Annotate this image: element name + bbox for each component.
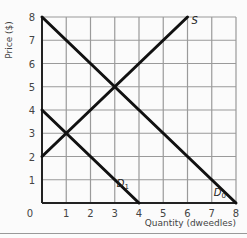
y-tick-label: 2 (29, 152, 35, 163)
x-tick-label: 3 (112, 208, 118, 219)
y-tick-label: 3 (29, 128, 35, 139)
curve-label-s: S (192, 15, 199, 26)
x-tick-label: 1 (63, 208, 69, 219)
y-tick-label: 7 (29, 35, 35, 46)
supply-demand-chart: 012345678 12345678 Quantity (dweedles) P… (0, 0, 247, 238)
x-axis-label: Quantity (dweedles) (145, 218, 236, 228)
y-axis-label: Price ($) (4, 21, 14, 59)
x-tick-label: 0 (27, 208, 33, 219)
y-tick-label: 8 (29, 12, 35, 23)
x-tick-label: 4 (136, 208, 142, 219)
y-tick-label: 6 (29, 59, 35, 70)
curve-labels: SD0D1 (117, 15, 226, 200)
curve-label-d0: D0 (214, 187, 226, 200)
x-tick-label: 2 (87, 208, 93, 219)
y-tick-label: 1 (29, 175, 35, 186)
y-tick-label: 5 (29, 82, 35, 93)
y-tick-label: 4 (29, 105, 35, 116)
y-tick-labels: 12345678 (29, 12, 35, 186)
